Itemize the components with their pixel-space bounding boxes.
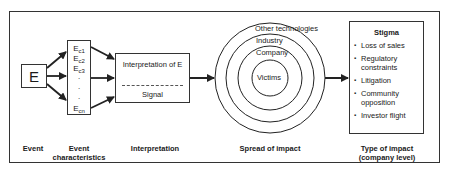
- arrow-c-to-interp-bot: [91, 97, 114, 108]
- stigma-item: Loss of sales: [354, 41, 423, 50]
- ring-label-other-technologies: Other technologies: [255, 24, 318, 33]
- ring-label-victims: Victims: [257, 73, 281, 82]
- caption-event-characteristics: Event characteristics: [47, 144, 111, 162]
- arrow-c-to-interp-top: [91, 47, 114, 59]
- char-dot: ·: [68, 84, 90, 93]
- event-label: E: [29, 68, 39, 85]
- char-dot: ·: [68, 74, 90, 83]
- ring-label-industry: Industry: [256, 36, 283, 45]
- arrow-e-to-c1: [47, 52, 66, 68]
- char-dot: ·: [68, 94, 90, 103]
- stigma-item: Regulatory constraints: [354, 54, 423, 72]
- caption-interpretation: Interpretation: [120, 144, 190, 153]
- stigma-item: Litigation: [354, 76, 423, 85]
- caption-type-of-impact: Type of impact (company level): [350, 144, 424, 162]
- ring-label-company: Company: [256, 48, 288, 57]
- caption-event: Event: [18, 144, 48, 153]
- interpretation-text: Interpretation of E: [116, 60, 189, 69]
- stigma-item: Community opposition: [354, 89, 423, 107]
- dashed-divider: [122, 85, 183, 86]
- stigma-list: Loss of sales Regulatory constraints Lit…: [350, 41, 423, 120]
- stigma-box: Stigma Loss of sales Regulatory constrai…: [349, 21, 424, 134]
- arrow-e-to-cn: [47, 84, 66, 100]
- event-characteristics-box: Ec1 Ec2 Ec3 · · · Ecn: [67, 40, 91, 115]
- stigma-item: Investor flight: [354, 111, 423, 120]
- interpretation-box: Interpretation of E Signal: [115, 53, 190, 103]
- caption-spread-of-impact: Spread of impact: [230, 144, 310, 153]
- char-item: Ecn: [68, 104, 90, 116]
- event-box: E: [21, 64, 47, 88]
- stigma-title: Stigma: [350, 28, 423, 37]
- signal-text: Signal: [116, 90, 189, 99]
